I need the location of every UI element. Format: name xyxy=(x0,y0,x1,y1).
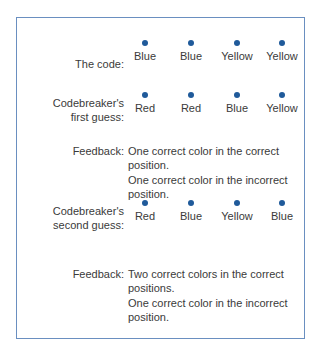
peg-dot-icon xyxy=(234,92,240,98)
code-peg-2: Blue xyxy=(169,40,213,62)
guess1-peg-4: Yellow xyxy=(260,92,304,114)
peg-dot-icon xyxy=(279,200,285,206)
code-peg-1: Blue xyxy=(123,40,167,62)
guess1-peg-3: Blue xyxy=(215,92,259,114)
guess2-peg-4: Blue xyxy=(260,200,304,222)
peg-dot-icon xyxy=(142,40,148,46)
peg-dot-icon xyxy=(188,40,194,46)
guess1-peg-2: Red xyxy=(169,92,213,114)
feedback-text: Two correct colors in the correct positi… xyxy=(128,267,298,325)
mastermind-example-panel: The code: Blue Blue Yellow Yellow Codebr… xyxy=(16,17,305,339)
peg-dot-icon xyxy=(188,200,194,206)
first-guess-label: Codebreaker's first guess: xyxy=(53,96,124,124)
feedback-label: Feedback: xyxy=(73,267,124,281)
guess2-peg-2: Blue xyxy=(169,200,213,222)
peg-dot-icon xyxy=(234,200,240,206)
guess2-peg-3: Yellow xyxy=(215,200,259,222)
code-peg-4: Yellow xyxy=(260,40,304,62)
code-peg-3: Yellow xyxy=(215,40,259,62)
peg-dot-icon xyxy=(188,92,194,98)
code-label: The code: xyxy=(75,57,124,71)
feedback-text: One correct color in the correct positio… xyxy=(128,144,298,202)
peg-dot-icon xyxy=(234,40,240,46)
peg-dot-icon xyxy=(279,92,285,98)
feedback-label: Feedback: xyxy=(73,144,124,158)
peg-dot-icon xyxy=(142,92,148,98)
second-guess-label: Codebreaker's second guess: xyxy=(53,204,124,232)
peg-dot-icon xyxy=(279,40,285,46)
peg-dot-icon xyxy=(142,200,148,206)
guess1-peg-1: Red xyxy=(123,92,167,114)
guess2-peg-1: Red xyxy=(123,200,167,222)
